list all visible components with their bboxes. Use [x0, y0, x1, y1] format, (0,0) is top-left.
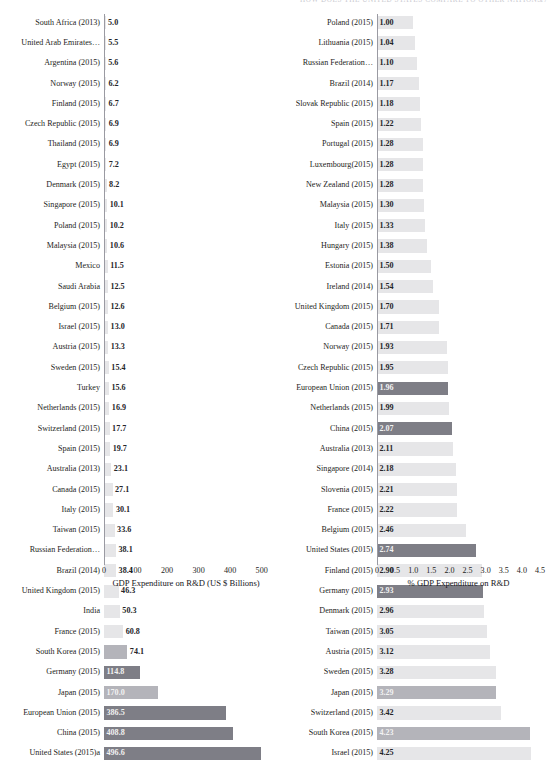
bar-value-label: 6.9: [109, 134, 119, 154]
category-label: Israel (2015): [331, 743, 373, 763]
chart-row: Sweden (2015)15.4: [0, 358, 272, 378]
bar-value-label: 386.5: [107, 703, 125, 723]
chart-row: Czech Republic (2015)1.95: [272, 358, 548, 378]
bar-value-label: 2.22: [380, 500, 394, 520]
category-label: Italy (2015): [335, 216, 373, 236]
bar-value-label: 7.2: [109, 155, 119, 175]
chart-row: Poland (2015)1.00: [272, 13, 548, 33]
bar-value-label: 19.7: [113, 439, 127, 459]
category-label: European Union (2015): [296, 378, 373, 398]
bar-value-label: 4.25: [380, 743, 394, 763]
category-label: Canada (2015): [325, 317, 373, 337]
bar-value-label: 3.29: [380, 683, 394, 703]
bar: [377, 727, 530, 740]
chart-row: France (2015)2.22: [272, 500, 548, 520]
bar-value-label: 2.11: [380, 439, 394, 459]
bar-value-label: 1.38: [380, 236, 394, 256]
chart-row: Brazil (2014)1.17: [272, 74, 548, 94]
chart-row: European Union (2015)1.96: [272, 378, 548, 398]
bar-value-label: 15.6: [111, 378, 125, 398]
chart-row: Japan (2015)3.29: [272, 683, 548, 703]
bar-value-label: 2.46: [380, 520, 394, 540]
bar-value-label: 1.04: [380, 33, 394, 53]
category-label: Norway (2015): [323, 337, 373, 357]
bar-value-label: 10.1: [110, 195, 124, 215]
chart-row: United Kingdom (2015)1.70: [272, 297, 548, 317]
bar-value-label: 16.9: [112, 398, 126, 418]
bar-value-label: 13.0: [111, 317, 125, 337]
bar-value-label: 2.74: [380, 540, 394, 560]
bar-value-label: 27.1: [115, 480, 129, 500]
category-label: South Korea (2015): [309, 723, 373, 743]
bar-value-label: 1.95: [380, 358, 394, 378]
chart-row: Denmark (2015)8.2: [0, 175, 272, 195]
bar-chart-absolute-rd-spending: South Africa (2013)5.0United Arab Emirat…: [0, 0, 272, 599]
chart-row: Saudi Arabia12.5: [0, 277, 272, 297]
bar-value-label: 1.70: [380, 297, 394, 317]
chart-row: Singapore (2014)2.18: [272, 459, 548, 479]
chart-row: Germany (2015)114.8: [0, 662, 272, 682]
category-label: Norway (2015): [50, 74, 100, 94]
category-label: Germany (2015): [46, 662, 100, 682]
bar-value-label: 6.9: [109, 114, 119, 134]
bar-value-label: 3.05: [380, 622, 394, 642]
bar-value-label: 12.6: [110, 297, 124, 317]
bar-value-label: 1.28: [380, 175, 394, 195]
category-label: Poland (2015): [327, 13, 373, 33]
bar: [377, 686, 496, 699]
chart-row: United States (2015)2.74: [272, 540, 548, 560]
category-label: Japan (2015): [58, 683, 100, 703]
category-label: Belgium (2015): [49, 297, 100, 317]
category-label: Switzerland (2015): [311, 703, 373, 723]
chart-row: Luxembourg(2015)1.28: [272, 155, 548, 175]
chart-row: Norway (2015)6.2: [0, 74, 272, 94]
chart-row: Argentina (2015)5.6: [0, 53, 272, 73]
category-label: New Zealand (2015): [306, 175, 373, 195]
bar: [104, 645, 127, 658]
chart-row: Norway (2015)1.93: [272, 337, 548, 357]
bar-value-label: 10.6: [110, 236, 124, 256]
category-label: Czech Republic (2015): [25, 114, 100, 134]
bar-value-label: 38.1: [119, 540, 133, 560]
chart-row: Turkey15.6: [0, 378, 272, 398]
chart-row: Poland (2015)10.2: [0, 216, 272, 236]
bar-value-label: 1.28: [380, 134, 394, 154]
bar-value-label: 1.30: [380, 195, 394, 215]
category-label: Israel (2015): [58, 317, 100, 337]
chart-row: Slovenia (2015)2.21: [272, 480, 548, 500]
chart-row: South Korea (2015)74.1: [0, 642, 272, 662]
chart-row: Austria (2015)13.3: [0, 337, 272, 357]
category-label: South Africa (2013): [35, 13, 100, 33]
category-label: Spain (2015): [58, 439, 100, 459]
chart-row: Portugal (2015)1.28: [272, 134, 548, 154]
category-label: Denmark (2015): [46, 175, 100, 195]
bar-value-label: 1.93: [380, 337, 394, 357]
chart-row: Israel (2015)13.0: [0, 317, 272, 337]
chart-row: Egypt (2015)7.2: [0, 155, 272, 175]
x-axis-tick-label: 4.5: [518, 566, 548, 575]
category-label: Egypt (2015): [57, 155, 100, 175]
bar-value-label: 2.21: [380, 480, 394, 500]
category-label: Spain (2015): [331, 114, 373, 134]
bar: [104, 463, 111, 476]
category-label: Luxembourg(2015): [310, 155, 373, 175]
bar: [377, 747, 531, 760]
category-label: Austria (2015): [53, 337, 100, 357]
category-label: Taiwan (2015): [53, 520, 100, 540]
bar: [377, 706, 501, 719]
chart-row: Japan (2015)170.0: [0, 683, 272, 703]
bar-value-label: 1.54: [380, 277, 394, 297]
bar-value-label: 1.50: [380, 256, 394, 276]
chart-row: France (2015)60.8: [0, 622, 272, 642]
category-label: Sweden (2015): [324, 662, 373, 682]
bar-value-label: 6.7: [109, 94, 119, 114]
bar-value-label: 496.6: [107, 743, 125, 763]
category-label: Saudi Arabia: [58, 277, 100, 297]
category-label: Netherlands (2015): [310, 398, 373, 418]
chart-row: Russian Federation…1.10: [272, 53, 548, 73]
category-label: Italy (2015): [62, 500, 100, 520]
chart-row: Switzerland (2015)3.42: [272, 703, 548, 723]
category-label: United Arab Emirates…: [21, 33, 100, 53]
chart-row: China (2015)2.07: [272, 419, 548, 439]
category-label: India: [83, 601, 100, 621]
